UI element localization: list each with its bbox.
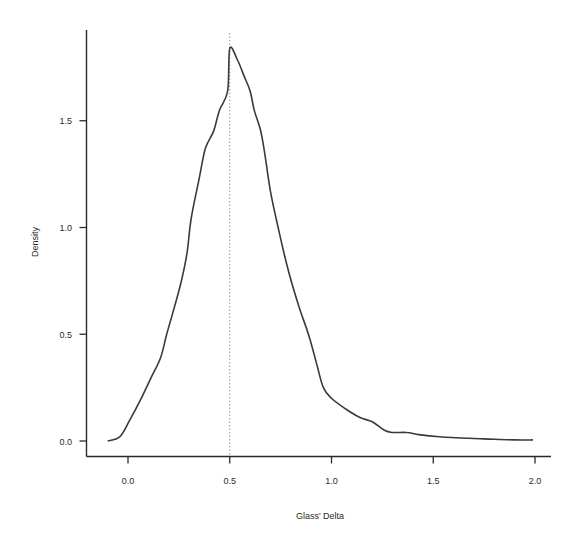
y-tick-label: 1.0 [59,223,72,233]
y-tick-label: 0.5 [59,330,72,340]
x-tick-label: 1.5 [427,476,440,486]
y-axis-ticks: 0.00.51.01.5 [59,116,86,446]
x-tick-label: 1.0 [325,476,338,486]
density-curve [108,47,533,441]
x-tick-label: 0.0 [122,476,135,486]
x-tick-label: 2.0 [529,476,542,486]
y-tick-label: 1.5 [59,116,72,126]
x-tick-label: 0.5 [223,476,236,486]
x-axis-ticks: 0.00.51.01.52.0 [122,457,542,487]
y-tick-label: 0.0 [59,437,72,447]
y-axis-label: Density [30,226,40,257]
axes [87,30,552,457]
density-chart: 0.00.51.01.52.0 0.00.51.01.5 Glass' Delt… [0,0,576,542]
x-axis-label: Glass' Delta [296,511,344,521]
